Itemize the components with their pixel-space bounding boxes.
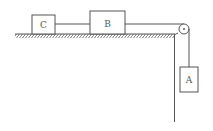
block-c-label: C xyxy=(40,20,47,30)
block-b: B xyxy=(90,11,125,34)
pulley-diagram: C B A xyxy=(0,0,213,131)
pulley-axle xyxy=(183,28,185,30)
block-a: A xyxy=(180,67,198,92)
ground-hatching xyxy=(15,34,174,38)
block-b-label: B xyxy=(104,19,111,29)
block-c: C xyxy=(32,15,55,34)
table xyxy=(15,34,175,122)
block-a-label: A xyxy=(185,75,193,85)
